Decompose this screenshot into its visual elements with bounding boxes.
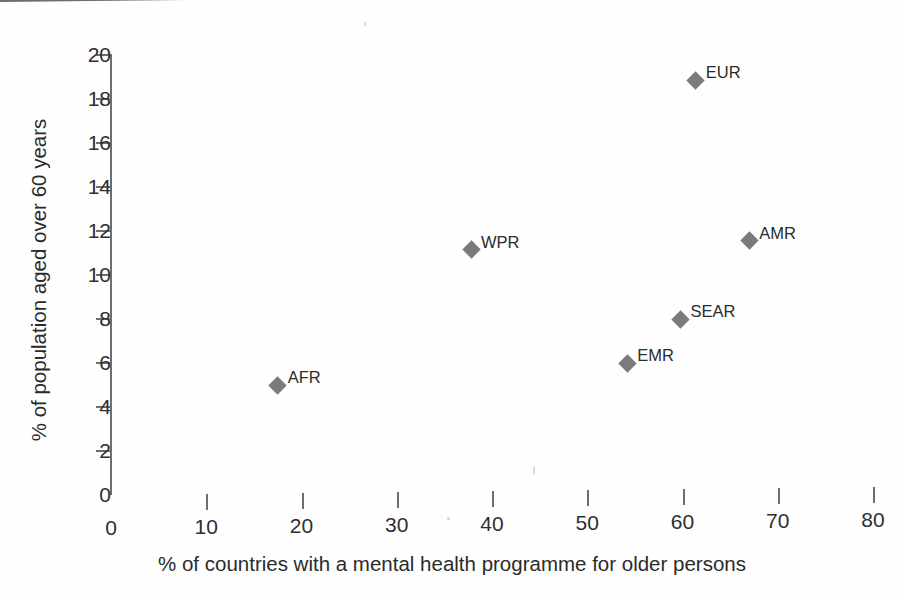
x-tick-mark	[873, 487, 875, 503]
y-tick-label: 14	[65, 176, 111, 197]
x-tick-mark	[683, 489, 685, 505]
x-tick-label: 20	[272, 515, 332, 536]
data-point-label-eur: EUR	[706, 64, 741, 81]
x-axis-title: % of countries with a mental health prog…	[0, 552, 904, 576]
y-tick-label: 10	[65, 264, 111, 285]
scan-speck	[533, 466, 535, 474]
y-tick-label: 16	[65, 132, 111, 153]
y-tick-label: 18	[65, 88, 111, 109]
y-tick-label: 0	[65, 484, 111, 505]
x-tick-label: 10	[176, 516, 236, 537]
y-tick-label: 12	[65, 220, 111, 241]
y-axis-title: % of population aged over 60 years	[27, 70, 51, 490]
scan-speck	[447, 517, 450, 520]
y-tick-label: 4	[65, 396, 111, 417]
data-point-label-emr: EMR	[637, 347, 674, 364]
x-tick-label: 0	[81, 517, 141, 538]
x-axis-line	[0, 0, 764, 2]
x-tick-mark	[397, 492, 399, 508]
x-tick-label: 70	[748, 510, 808, 531]
data-point-amr[interactable]	[740, 232, 758, 250]
scan-speck	[364, 22, 366, 26]
x-tick-mark	[778, 488, 780, 504]
scatter-plot-figure: 02468101214161820 01020304050607080 AFRW…	[0, 0, 904, 600]
y-tick-label: 2	[65, 440, 111, 461]
data-point-label-wpr: WPR	[481, 234, 520, 251]
y-tick-label: 6	[65, 352, 111, 373]
x-tick-mark	[206, 494, 208, 510]
y-tick-label: 20	[65, 44, 111, 65]
data-point-eur[interactable]	[687, 71, 705, 89]
data-point-emr[interactable]	[618, 354, 636, 372]
x-tick-mark	[302, 493, 304, 509]
data-point-wpr[interactable]	[462, 240, 480, 258]
x-tick-mark	[587, 490, 589, 506]
data-point-afr[interactable]	[268, 376, 286, 394]
x-tick-mark	[492, 491, 494, 507]
x-tick-label: 30	[367, 514, 427, 535]
data-point-label-sear: SEAR	[691, 303, 736, 320]
x-tick-label: 60	[653, 511, 713, 532]
data-point-sear[interactable]	[671, 310, 689, 328]
x-tick-label: 80	[843, 509, 903, 530]
data-point-label-amr: AMR	[759, 225, 796, 242]
data-point-label-afr: AFR	[288, 369, 321, 386]
x-tick-label: 50	[557, 512, 617, 533]
y-tick-label: 8	[65, 308, 111, 329]
x-tick-label: 40	[462, 513, 522, 534]
